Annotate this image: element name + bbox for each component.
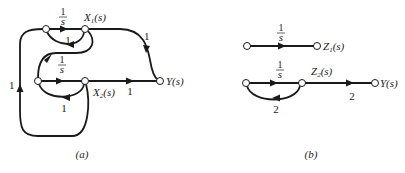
node-label-y: Y(s) — [166, 75, 184, 88]
figure-a: 1 s X1(s) 1 1 1 s X2(s) 1 1 Y(s) 1 (a) — [9, 6, 184, 161]
node-label-z2: Z2(s) — [311, 65, 333, 79]
gain-top-feedback: 1 — [65, 34, 71, 46]
gain-x1-to-y: 1 — [144, 30, 150, 42]
arrow-icon — [17, 84, 24, 92]
gain-z2-den: s — [278, 68, 282, 80]
node-label-x1: X1(s) — [83, 11, 106, 25]
node-top-left — [43, 26, 50, 33]
node-x1 — [82, 26, 89, 33]
node-x2 — [82, 78, 89, 85]
arrow-icon — [270, 80, 278, 87]
gain-x2-to-y: 1 — [127, 85, 133, 97]
node-mid-left — [35, 78, 42, 85]
node-z2 — [299, 80, 306, 87]
gain-z1-den: s — [279, 31, 283, 43]
signal-flow-diagram: 1 s X1(s) 1 1 1 s X2(s) 1 1 Y(s) 1 (a) 1… — [0, 0, 405, 173]
arrow-icon — [56, 78, 64, 85]
node-z1-input — [244, 43, 251, 50]
caption-b: (b) — [305, 148, 318, 161]
node-label-y-b: Y(s) — [380, 77, 398, 90]
figure-b: 1 s Z1(s) 1 s Z2(s) 2 2 Y(s) (b) — [243, 22, 399, 161]
arrow-icon — [346, 80, 354, 87]
gain-z2-to-y: 2 — [349, 90, 355, 102]
arrow-icon — [62, 94, 70, 101]
gain-x1-to-mid-den: s — [60, 63, 64, 75]
gain-top-integrator-den: s — [61, 15, 65, 27]
node-label-z1: Z1(s) — [323, 40, 345, 54]
node-label-x2: X2(s) — [92, 86, 115, 100]
node-z2-input — [243, 80, 250, 87]
node-y-b — [372, 80, 379, 87]
gain-outer-feedback: 1 — [9, 79, 15, 91]
gain-x2-feedback: 1 — [61, 102, 67, 114]
node-y — [157, 78, 164, 85]
arrow-icon — [278, 43, 286, 50]
gain-z2-feedback: 2 — [273, 103, 279, 115]
arrow-icon — [126, 78, 134, 85]
node-z1 — [314, 43, 321, 50]
edge-outer-feedback — [20, 29, 88, 136]
edge-x2-feedback — [39, 84, 84, 97]
caption-a: (a) — [76, 148, 89, 161]
arrow-icon — [272, 95, 280, 102]
